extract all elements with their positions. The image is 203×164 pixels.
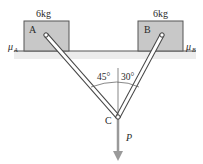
pin-c-icon bbox=[116, 115, 120, 119]
block-a-mass: 6kg bbox=[36, 8, 51, 19]
statics-diagram: 6kg A μ A 6kg B μ B 45° 30° C P bbox=[0, 0, 203, 164]
pin-a-icon bbox=[44, 33, 48, 37]
angle-left: 45° bbox=[97, 72, 111, 82]
svg-text:μ: μ bbox=[185, 41, 191, 52]
friction-b: μ B bbox=[185, 41, 196, 53]
load-label: P bbox=[125, 132, 132, 143]
block-a: 6kg A bbox=[24, 8, 69, 51]
friction-a: μ A bbox=[7, 41, 18, 53]
block-b-mass: 6kg bbox=[153, 8, 168, 19]
floor-surface bbox=[14, 51, 196, 59]
svg-text:A: A bbox=[13, 47, 18, 53]
svg-text:μ: μ bbox=[7, 41, 13, 52]
block-a-label: A bbox=[29, 24, 37, 35]
load-arrow-icon bbox=[113, 119, 123, 161]
svg-text:B: B bbox=[192, 47, 196, 53]
block-b-label: B bbox=[144, 24, 151, 35]
joint-c-label: C bbox=[105, 115, 112, 126]
pin-b-icon bbox=[160, 33, 164, 37]
block-b: 6kg B bbox=[138, 8, 183, 51]
angle-right: 30° bbox=[121, 72, 135, 82]
